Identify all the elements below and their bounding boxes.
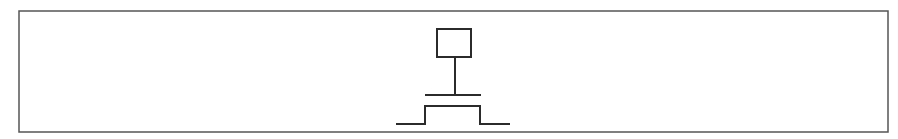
transistor-symbol [396, 29, 510, 124]
terminal-box [437, 29, 471, 57]
channel-step [396, 106, 510, 124]
diagram-canvas [0, 0, 898, 139]
